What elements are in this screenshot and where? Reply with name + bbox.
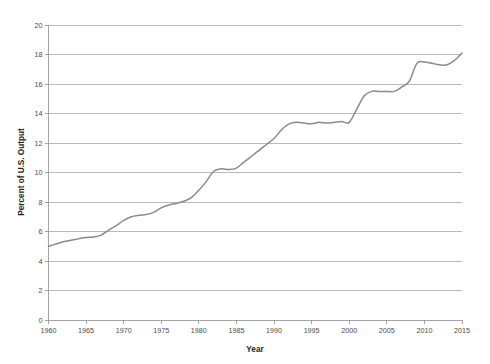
x-tick-label-1995: 1995 — [304, 326, 320, 335]
x-axis-title: Year — [246, 345, 264, 354]
x-tick-label-1975: 1975 — [153, 326, 169, 335]
y-tick-label-4: 4 — [39, 257, 43, 266]
data-series — [49, 53, 463, 246]
y-tick-label-14: 14 — [35, 109, 43, 118]
y-tick-label-6: 6 — [39, 227, 43, 236]
y-tick-label-8: 8 — [39, 198, 43, 207]
x-tick-label-1980: 1980 — [191, 326, 207, 335]
y-tick-label-18: 18 — [35, 50, 43, 59]
x-tick-labels: 1960196519701975198019851990199520002005… — [41, 326, 471, 335]
y-tick-label-16: 16 — [35, 80, 43, 89]
x-tick-label-1960: 1960 — [41, 326, 57, 335]
gridlines — [49, 25, 463, 291]
y-axis — [45, 25, 49, 320]
y-tick-label-20: 20 — [35, 21, 43, 30]
x-tick-label-2010: 2010 — [416, 326, 432, 335]
chart-container: 02468101214161820 1960196519701975198019… — [0, 0, 490, 364]
y-tick-label-10: 10 — [35, 168, 43, 177]
y-tick-label-2: 2 — [39, 286, 43, 295]
x-axis — [49, 320, 463, 324]
y-tick-label-0: 0 — [39, 316, 43, 325]
x-tick-label-1990: 1990 — [266, 326, 282, 335]
x-tick-label-1970: 1970 — [116, 326, 132, 335]
y-tick-label-12: 12 — [35, 139, 43, 148]
x-tick-label-1985: 1985 — [228, 326, 244, 335]
line-chart: 02468101214161820 1960196519701975198019… — [0, 0, 490, 364]
x-tick-label-2015: 2015 — [454, 326, 470, 335]
x-tick-label-2000: 2000 — [341, 326, 357, 335]
y-axis-title: Percent of U.S. Output — [17, 128, 26, 216]
series-line-0 — [49, 53, 463, 246]
y-tick-labels: 02468101214161820 — [35, 21, 43, 325]
x-tick-label-2005: 2005 — [379, 326, 395, 335]
x-tick-label-1965: 1965 — [78, 326, 94, 335]
